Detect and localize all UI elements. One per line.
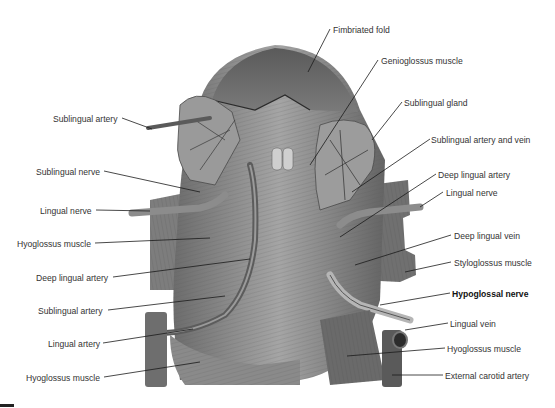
lingual-vein <box>393 332 407 348</box>
label-lingual-artery: Lingual artery <box>48 339 100 349</box>
label-lingual-vein: Lingual vein <box>450 319 496 329</box>
label-deep-lingual-artery-left: Deep lingual artery <box>36 273 108 283</box>
label-deep-lingual-vein: Deep lingual vein <box>454 231 520 241</box>
label-deep-lingual-artery-right: Deep lingual artery <box>438 170 510 180</box>
label-external-carotid-artery: External carotid artery <box>445 371 529 381</box>
label-sublingual-artery-left-lower: Sublingual artery <box>38 306 103 316</box>
label-fimbriated-fold: Fimbriated fold <box>333 25 390 35</box>
label-sublingual-nerve: Sublingual nerve <box>36 167 100 177</box>
label-sublingual-artery-and-vein: Sublingual artery and vein <box>431 135 530 145</box>
corner-mark <box>0 404 14 407</box>
label-lingual-nerve-right: Lingual nerve <box>446 188 498 198</box>
left-carotid-vessel <box>145 312 167 387</box>
label-hypoglossal-nerve: Hypoglossal nerve <box>452 289 528 299</box>
anatomy-figure: Sublingual artery Sublingual nerve Lingu… <box>0 0 555 408</box>
label-genioglossus-muscle: Genioglossus muscle <box>381 56 463 66</box>
label-hyoglossus-muscle-right: Hyoglossus muscle <box>447 344 521 354</box>
label-hyoglossus-muscle-left-lower: Hyoglossus muscle <box>26 373 100 383</box>
label-sublingual-artery-left: Sublingual artery <box>53 114 118 124</box>
label-styloglossus-muscle: Styloglossus muscle <box>454 258 532 268</box>
label-lingual-nerve-left: Lingual nerve <box>40 206 92 216</box>
label-sublingual-gland: Sublingual gland <box>404 98 468 108</box>
label-hyoglossus-muscle-left-upper: Hyoglossus muscle <box>17 239 91 249</box>
